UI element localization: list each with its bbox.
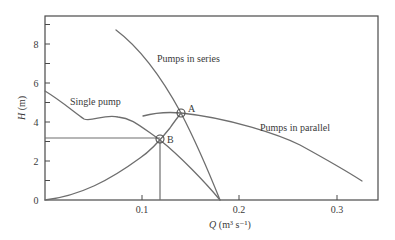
y-axis-ticks [45, 25, 50, 181]
operating-point-a-label: A [188, 103, 196, 114]
y-tick-label-8: 8 [34, 39, 39, 50]
y-tick-label-2: 2 [34, 156, 39, 167]
y-axis-title: H (m) [16, 96, 28, 121]
pump-characteristic-chart: 0 2 4 6 8 0.1 0.2 0.3 Q (m³ s⁻¹) H (m) A… [0, 0, 395, 240]
operating-point-b-label: B [167, 134, 174, 145]
x-tick-label-0.2: 0.2 [233, 204, 246, 215]
plot-frame [45, 16, 378, 200]
single-pump-label: Single pump [70, 96, 121, 107]
x-axis-title: Q (m³ s⁻¹) [209, 219, 251, 231]
y-tick-label-4: 4 [34, 117, 39, 128]
x-axis-ticks [142, 195, 337, 200]
system-curve [45, 113, 181, 200]
x-axis-unit: (m³ s⁻¹) [216, 219, 251, 231]
point-b-guide-lines [45, 138, 160, 200]
x-tick-label-0.3: 0.3 [331, 204, 344, 215]
pumps-in-parallel-label: Pumps in parallel [260, 122, 330, 133]
x-tick-label-0.1: 0.1 [136, 204, 149, 215]
y-axis-unit: (m) [16, 96, 28, 113]
y-tick-label-0: 0 [34, 195, 39, 206]
pumps-in-series-label: Pumps in series [157, 53, 220, 64]
y-tick-label-6: 6 [34, 78, 39, 89]
